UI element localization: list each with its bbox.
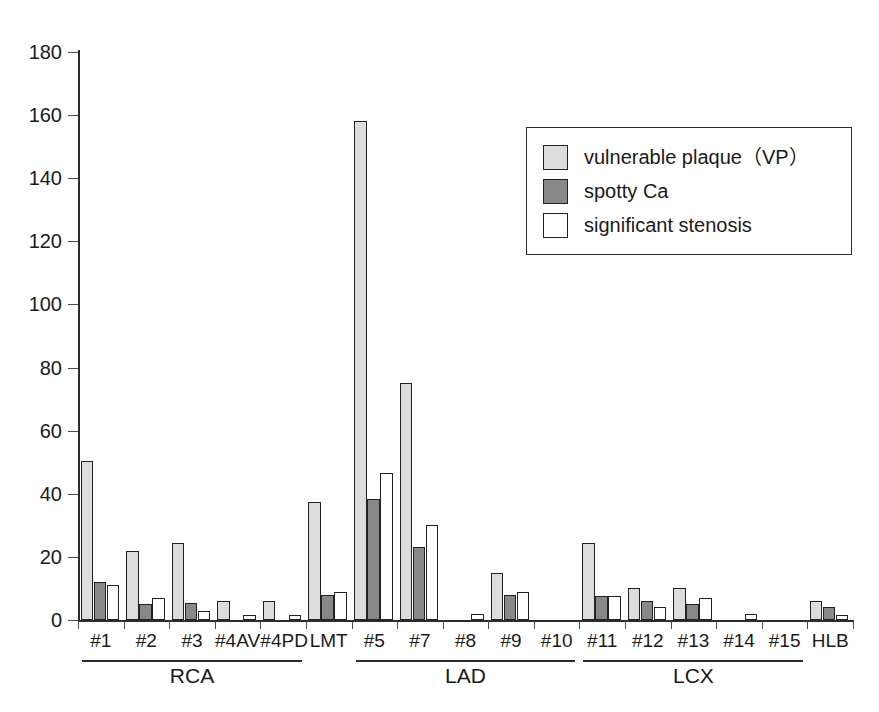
bar-significant-stenosis [152,598,165,620]
bar-spotty-ca [94,582,107,620]
legend-swatch-spotty-ca [543,179,568,204]
x-axis-label: #3 [169,630,215,652]
legend-item: vulnerable plaque（VP） [543,140,837,174]
x-axis-label: #1 [78,630,124,652]
y-axis-tick [68,178,78,179]
vessel-group-rule [583,660,803,662]
x-axis-tick [443,621,444,629]
bar-spotty-ca [367,499,380,620]
y-axis-tick [68,241,78,242]
bar-spotty-ca [413,547,426,620]
legend-item: significant stenosis [543,208,837,242]
x-axis-tick [215,621,216,629]
legend-swatch-significant-stenosis [543,213,568,238]
bar-group [81,52,120,620]
bar-group [263,52,302,620]
x-axis-tick [169,621,170,629]
x-axis-tick [78,621,79,629]
x-axis-label: #9 [488,630,534,652]
bar-vulnerable-plaque [628,588,641,620]
y-axis-tick-label-text: 60 [2,421,62,441]
y-axis-tick-label: 80 [0,358,62,378]
bar-group [491,52,530,620]
x-axis-label: #2 [124,630,170,652]
y-axis-tick-label: 100 [0,294,62,314]
y-axis-tick-label-text: 40 [2,484,62,504]
x-axis-tick [124,621,125,629]
y-axis-tick-label-text: 120 [2,231,62,251]
bar-significant-stenosis [107,585,120,620]
x-axis-tick [625,621,626,629]
x-axis-label: #11 [579,630,625,652]
bar-group [172,52,211,620]
bar-vulnerable-plaque [217,601,230,620]
bar-spotty-ca [823,607,836,620]
bar-significant-stenosis [289,615,302,620]
y-axis-tick-label-text: 160 [2,105,62,125]
vessel-group-rule [356,660,576,662]
x-axis-tick [716,621,717,629]
x-axis-tick [306,621,307,629]
legend-label-vulnerable-plaque: vulnerable plaque（VP） [584,146,809,168]
x-axis-label: #7 [397,630,443,652]
y-axis-tick [68,494,78,495]
bar-significant-stenosis [471,614,484,620]
x-axis-label: #14 [716,630,762,652]
bar-significant-stenosis [426,525,439,620]
bar-vulnerable-plaque [172,543,185,620]
legend-swatch-vulnerable-plaque [543,145,568,170]
x-axis-label: #5 [352,630,398,652]
y-axis-tick-label-text: 0 [2,610,62,630]
y-axis-tick-label: 140 [0,168,62,188]
bar-vulnerable-plaque [308,502,321,620]
bar-group [400,52,439,620]
x-axis-line [78,620,854,622]
x-axis-label: #12 [625,630,671,652]
y-axis-tick [68,431,78,432]
x-axis-label: #4PD [260,630,306,652]
x-axis-tick [488,621,489,629]
bar-significant-stenosis [699,598,712,620]
bar-significant-stenosis [243,615,256,620]
bar-spotty-ca [641,601,654,620]
x-axis-label: #10 [534,630,580,652]
bar-significant-stenosis [608,596,621,620]
x-axis-label: #13 [671,630,717,652]
x-axis-tick [853,621,854,629]
x-axis-tick [534,621,535,629]
bar-vulnerable-plaque [81,461,94,620]
y-axis-tick [68,304,78,305]
y-axis-tick-label: 40 [0,484,62,504]
bar-chart: 180160140120100806040200 #1#2#3#4AV#4PDL… [0,0,879,712]
bar-vulnerable-plaque [673,588,686,620]
x-axis-tick [352,621,353,629]
bar-spotty-ca [595,596,608,620]
x-axis-tick [671,621,672,629]
x-axis-label: #15 [762,630,808,652]
y-axis-tick-label: 180 [0,42,62,62]
y-axis-tick-label-text: 80 [2,358,62,378]
y-axis-tick-label: 160 [0,105,62,125]
bar-vulnerable-plaque [810,601,823,620]
bar-significant-stenosis [380,473,393,620]
y-axis-tick [68,557,78,558]
y-axis-tick [68,620,78,621]
y-axis-tick-label: 60 [0,421,62,441]
vessel-group-label: LAD [356,664,576,688]
bar-spotty-ca [686,604,699,620]
x-axis-label: LMT [306,630,352,652]
y-axis-tick-label: 120 [0,231,62,251]
bar-significant-stenosis [654,607,667,620]
bar-group [445,52,484,620]
chart-legend: vulnerable plaque（VP） spotty Ca signific… [526,127,852,255]
bar-vulnerable-plaque [354,121,367,620]
x-axis-label: #4AV [215,630,261,652]
bar-group [354,52,393,620]
legend-item: spotty Ca [543,174,837,208]
bar-vulnerable-plaque [400,383,413,620]
x-axis-tick [260,621,261,629]
bar-group [308,52,347,620]
y-axis-tick [68,52,78,53]
y-axis-tick-label: 0 [0,610,62,630]
x-axis-label: HLB [807,630,853,652]
